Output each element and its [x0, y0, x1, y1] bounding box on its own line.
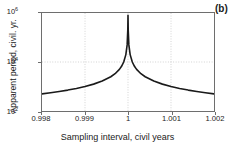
- x-tick-label: 1.001: [162, 115, 181, 123]
- y-tick-label: 104: [7, 58, 18, 65]
- series-line: [42, 15, 214, 94]
- figure-panel-b: Apparent period, civil. yr. 102104106 0.…: [0, 0, 235, 154]
- x-tick-label: 0.999: [75, 115, 94, 123]
- data-curve-apparent-period: [42, 13, 214, 111]
- x-tick-mark: [128, 112, 129, 115]
- x-tick-mark: [215, 112, 216, 115]
- x-axis-title: Sampling interval, civil years: [0, 133, 235, 142]
- x-tick-label: 1: [126, 115, 130, 123]
- y-tick-label: 102: [7, 108, 18, 115]
- x-tick-mark: [85, 112, 86, 115]
- plot-area: [41, 12, 215, 112]
- x-tick-mark: [172, 112, 173, 115]
- x-tick-label: 1.002: [205, 115, 224, 123]
- y-tick-label: 106: [7, 8, 18, 15]
- x-tick-label: 0.998: [31, 115, 50, 123]
- x-tick-mark: [41, 112, 42, 115]
- panel-label: (b): [215, 4, 228, 14]
